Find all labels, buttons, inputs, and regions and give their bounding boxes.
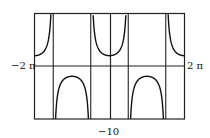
y-min-label: −10 [98, 126, 119, 137]
x-max-label: 2 π [187, 60, 203, 71]
x-min-label: −2 π [11, 60, 36, 71]
